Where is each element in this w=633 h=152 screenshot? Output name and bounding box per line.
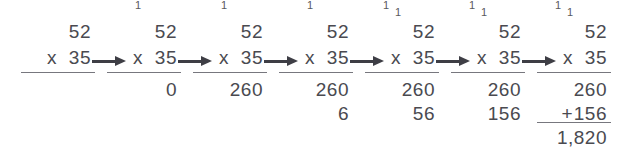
partial-product-1: 260	[535, 80, 607, 99]
carry-digit: 1	[135, 0, 141, 11]
multiplicand: 52	[191, 22, 263, 41]
multiplier: 35	[241, 47, 263, 68]
multiplication-step-4: 152x352606	[277, 0, 363, 152]
multiplier-row: x35	[105, 48, 177, 67]
carry-digit: 1	[395, 7, 401, 18]
carry-digits: 11	[535, 0, 607, 16]
carry-digits: 1	[191, 0, 263, 16]
partial-product-2: 56	[413, 103, 435, 124]
add-operator: +	[561, 104, 573, 123]
multiplication-rule	[107, 72, 181, 73]
multiplier-row: x35	[191, 48, 263, 67]
multiply-operator: x	[133, 48, 143, 67]
multiplier: 35	[499, 47, 521, 68]
carry-digit: 1	[307, 0, 313, 11]
partial-product-2-row: +156	[535, 104, 607, 123]
multiplier-row: x35	[449, 48, 521, 67]
carry-digit: 1	[469, 0, 475, 11]
multiply-operator: x	[219, 48, 229, 67]
multiplication-rule	[193, 72, 267, 73]
carry-digit: 1	[481, 7, 487, 18]
partial-product-1: 260	[277, 80, 349, 99]
multiplicand: 52	[363, 22, 435, 41]
multiplier: 35	[327, 47, 349, 68]
multiplier-row: x35	[19, 48, 91, 67]
multiply-operator: x	[305, 48, 315, 67]
multiplication-rule	[451, 72, 525, 73]
multiplication-step-5: 1152x3526056	[363, 0, 449, 152]
multiplier-row: x35	[363, 48, 435, 67]
sum-rule	[537, 122, 611, 123]
carry-digits: 1	[277, 0, 349, 16]
multiply-operator: x	[47, 48, 57, 67]
partial-product-1: 260	[191, 80, 263, 99]
multiplier: 35	[155, 47, 177, 68]
carry-digit: 1	[555, 0, 561, 11]
multiplication-rule	[279, 72, 353, 73]
multiplier: 35	[413, 47, 435, 68]
carry-digit: 1	[567, 7, 573, 18]
multiplication-steps-figure: 52x35152x350152x35260152x3526061152x3526…	[0, 0, 633, 152]
multiplication-step-2: 152x350	[105, 0, 191, 152]
partial-product-2-row: 156	[449, 104, 521, 123]
multiplicand: 52	[535, 22, 607, 41]
multiplication-step-6: 1152x35260156	[449, 0, 535, 152]
multiplier: 35	[585, 47, 607, 68]
partial-product-2: 156	[574, 103, 607, 124]
carry-digits: 11	[449, 0, 521, 16]
multiplication-rule	[21, 72, 95, 73]
multiplier: 35	[69, 47, 91, 68]
multiplication-rule	[365, 72, 439, 73]
final-product: 1,820	[535, 128, 607, 147]
carry-digits: 1	[105, 0, 177, 16]
multiplicand: 52	[19, 22, 91, 41]
multiplication-step-7: 1152x35260+1561,820	[535, 0, 621, 152]
multiplier-row: x35	[277, 48, 349, 67]
multiply-operator: x	[563, 48, 573, 67]
multiplicand: 52	[105, 22, 177, 41]
multiplicand: 52	[449, 22, 521, 41]
partial-product-1: 260	[363, 80, 435, 99]
carry-digit: 1	[221, 0, 227, 11]
carry-digits: 11	[363, 0, 435, 16]
partial-product-2: 156	[488, 103, 521, 124]
partial-product-2-row: 56	[363, 104, 435, 123]
partial-product-1: 0	[105, 80, 177, 99]
carry-digit: 1	[383, 0, 389, 11]
partial-product-2: 6	[338, 103, 349, 124]
multiplication-step-3: 152x35260	[191, 0, 277, 152]
multiplier-row: x35	[535, 48, 607, 67]
multiplication-step-1: 52x35	[19, 0, 105, 152]
partial-product-1: 260	[449, 80, 521, 99]
multiply-operator: x	[391, 48, 401, 67]
partial-product-2-row: 6	[277, 104, 349, 123]
multiplication-rule	[537, 72, 611, 73]
multiplicand: 52	[277, 22, 349, 41]
multiply-operator: x	[477, 48, 487, 67]
